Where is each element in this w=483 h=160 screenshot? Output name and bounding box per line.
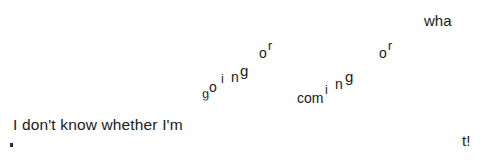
image-canvas: I don't know whether I'm g o i n g o r c… — [0, 0, 483, 160]
text-what-part-t-exclamation: t! — [462, 133, 470, 148]
text-coming-letter-n: n — [335, 77, 343, 91]
text-going-letter-i: i — [221, 73, 224, 86]
text-main-line: I don't know whether I'm — [13, 117, 183, 133]
text-coming-letter-g: g — [345, 69, 353, 84]
text-coming-letter-i: i — [325, 84, 328, 97]
text-what-part-wha: wha — [424, 13, 452, 28]
text-going-letter-o: o — [209, 80, 217, 94]
text-going-letter-g2: g — [240, 63, 248, 78]
text-or-first-letter-o: o — [259, 46, 267, 60]
text-or-second-letter-r: r — [388, 40, 392, 53]
text-or-second-letter-o: o — [379, 46, 387, 60]
text-going-letter-n: n — [231, 70, 239, 84]
text-or-first-letter-r: r — [268, 40, 272, 53]
stray-dot-mark — [10, 143, 13, 147]
text-coming-letters-com: com — [297, 91, 323, 105]
